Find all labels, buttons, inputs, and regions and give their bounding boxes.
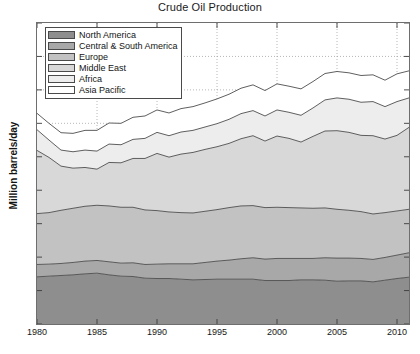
chart-legend[interactable]: North AmericaCentral & South AmericaEuro… (45, 27, 182, 99)
legend-swatch-icon (48, 86, 75, 94)
legend-item[interactable]: Middle East (48, 63, 178, 73)
legend-swatch-icon (48, 42, 75, 50)
legend-item[interactable]: Asia Pacific (48, 85, 178, 95)
legend-item-label: Europe (79, 53, 108, 62)
x-tick-label: 2005 (307, 327, 367, 337)
legend-swatch-icon (48, 75, 75, 83)
chart-root: Crude Oil Production Million barrels/day… (0, 0, 420, 354)
x-tick-label: 1985 (67, 327, 127, 337)
legend-swatch-icon (48, 53, 75, 61)
x-tick-label: 1990 (127, 327, 187, 337)
area-series-group (37, 71, 409, 324)
x-tick-label: 1980 (7, 327, 67, 337)
legend-item[interactable]: Central & South America (48, 41, 178, 51)
legend-item-label: North America (79, 31, 136, 40)
legend-item-label: Asia Pacific (79, 86, 126, 95)
chart-title: Crude Oil Production (0, 1, 420, 13)
area-series (37, 205, 409, 264)
x-tick-label: 1995 (187, 327, 247, 337)
legend-item[interactable]: North America (48, 30, 178, 40)
legend-swatch-icon (48, 31, 75, 39)
x-tick-label: 2010 (367, 327, 420, 337)
legend-item-label: Middle East (79, 64, 126, 73)
legend-item[interactable]: Africa (48, 74, 178, 84)
x-tick-label: 2000 (247, 327, 307, 337)
legend-item[interactable]: Europe (48, 52, 178, 62)
legend-item-label: Central & South America (79, 42, 178, 51)
y-axis-label: Million barrels/day (8, 91, 19, 241)
legend-swatch-icon (48, 64, 75, 72)
legend-item-label: Africa (79, 75, 102, 84)
